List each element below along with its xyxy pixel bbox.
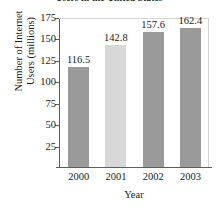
bar-slot: 142.8 bbox=[97, 18, 134, 167]
y-axis-tick-label: 75 bbox=[46, 98, 57, 109]
bar-series: 116.5142.8157.6162.4 bbox=[60, 18, 209, 167]
bar-value-label: 157.6 bbox=[141, 19, 165, 30]
bar-chart-figure: Users in the United States Number of Int… bbox=[0, 0, 218, 211]
y-axis-tick-label: 50 bbox=[46, 119, 57, 130]
bar-value-label: 142.8 bbox=[104, 32, 128, 43]
x-axis-tick-labels: 2000200120022003 bbox=[60, 171, 209, 185]
y-axis-tick-label: 125 bbox=[40, 55, 56, 66]
bar-value-label: 162.4 bbox=[179, 15, 203, 26]
y-axis-tick-label: 175 bbox=[40, 12, 56, 23]
y-axis-tick-label: 150 bbox=[40, 33, 56, 44]
x-axis-tick-label: 2002 bbox=[135, 171, 172, 182]
x-axis-tick-label: 2001 bbox=[97, 171, 134, 182]
plot-area: 255075100125150175 116.5142.8157.6162.4 bbox=[59, 18, 209, 168]
y-axis-tick-label: 100 bbox=[40, 76, 56, 87]
bar[interactable]: 162.4 bbox=[180, 28, 201, 167]
x-axis-tick-label: 2003 bbox=[172, 171, 209, 182]
bar[interactable]: 116.5 bbox=[68, 67, 89, 167]
bar-slot: 157.6 bbox=[135, 18, 172, 167]
bar-slot: 116.5 bbox=[60, 18, 97, 167]
x-axis-tick-label: 2000 bbox=[60, 171, 97, 182]
y-axis-title-line-2: Users (millions) bbox=[25, 17, 38, 85]
bar[interactable]: 157.6 bbox=[143, 32, 164, 167]
bar-slot: 162.4 bbox=[172, 18, 209, 167]
bar[interactable]: 142.8 bbox=[105, 45, 126, 167]
x-axis-title: Year bbox=[59, 189, 209, 200]
x-axis-line bbox=[56, 167, 212, 168]
y-axis-tick-label: 25 bbox=[46, 141, 57, 152]
y-axis-title-line-1: Number of Internet bbox=[13, 10, 26, 91]
y-axis-title: Number of Internet Users (millions) bbox=[12, 0, 38, 126]
bar-value-label: 116.5 bbox=[67, 54, 90, 65]
